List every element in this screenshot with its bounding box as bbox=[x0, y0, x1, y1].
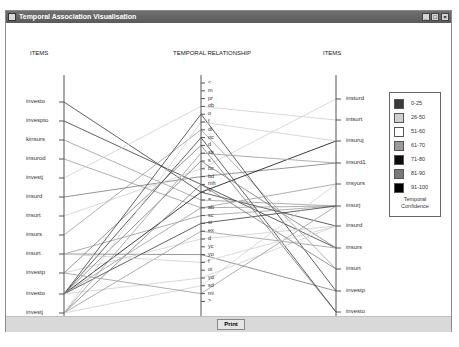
relationship-label[interactable]: yd bbox=[208, 274, 214, 280]
visualisation-canvas: ITEMS TEMPORAL RELATIONSHIP ITEMS invest… bbox=[6, 23, 451, 316]
left-item-label[interactable]: invespto bbox=[26, 117, 48, 123]
left-item-label[interactable]: investj bbox=[26, 309, 43, 315]
relationship-label[interactable]: oc bbox=[208, 134, 214, 140]
legend-title: Temporal Confidence bbox=[390, 196, 440, 210]
relationship-label[interactable]: m bbox=[208, 87, 213, 93]
relationship-label[interactable]: si bbox=[208, 219, 212, 225]
parallel-axes-plot bbox=[6, 23, 451, 316]
association-link bbox=[64, 140, 201, 200]
association-link bbox=[201, 184, 336, 269]
right-item-label[interactable]: insurs bbox=[346, 244, 362, 250]
association-link bbox=[201, 206, 336, 294]
relationship-label[interactable]: bd bbox=[208, 173, 214, 179]
right-item-label[interactable]: investp bbox=[346, 287, 365, 293]
association-link bbox=[201, 145, 336, 312]
relationship-label[interactable]: sd bbox=[208, 282, 214, 288]
right-item-label[interactable]: insurt bbox=[346, 265, 361, 271]
confidence-legend: 0-2526-5051-6061-7071-8081-9091-100 Temp… bbox=[389, 92, 441, 217]
association-link bbox=[64, 161, 201, 294]
association-link bbox=[64, 138, 201, 294]
left-item-label[interactable]: kinsurs bbox=[26, 136, 45, 142]
relationship-label[interactable]: o bbox=[208, 110, 211, 116]
association-link bbox=[201, 184, 336, 248]
close-button[interactable]: × bbox=[441, 13, 449, 21]
relationship-label[interactable]: mi bbox=[208, 290, 214, 296]
right-axis-header: ITEMS bbox=[323, 50, 341, 56]
left-item-label[interactable]: insurs bbox=[26, 231, 42, 237]
relationship-label[interactable]: > bbox=[208, 188, 211, 194]
relationship-label[interactable]: f bbox=[208, 258, 210, 264]
legend-swatch bbox=[394, 113, 404, 123]
relationship-label[interactable]: s bbox=[208, 157, 211, 163]
association-link bbox=[64, 254, 201, 262]
legend-range-label: 61-70 bbox=[411, 142, 425, 148]
relationship-label[interactable]: ab bbox=[208, 204, 214, 210]
relationship-label[interactable]: d bbox=[208, 235, 211, 241]
relationship-label[interactable]: f bbox=[208, 118, 210, 124]
association-link bbox=[64, 122, 201, 313]
right-item-label[interactable]: insurd bbox=[346, 222, 362, 228]
relationship-label[interactable]: mh bbox=[208, 180, 216, 186]
legend-swatch bbox=[394, 183, 404, 193]
title-bar[interactable]: Temporal Association Visualisation _ □ × bbox=[6, 11, 451, 23]
relationship-label[interactable]: yc bbox=[208, 243, 214, 249]
association-link bbox=[201, 226, 336, 239]
left-item-label[interactable]: investo bbox=[26, 290, 45, 296]
right-item-label[interactable]: investo bbox=[346, 308, 365, 314]
right-item-label[interactable]: insurd1 bbox=[346, 159, 366, 165]
legend-range-label: 81-90 bbox=[411, 170, 425, 176]
left-item-label[interactable]: insurt bbox=[26, 250, 41, 256]
close-icon: × bbox=[443, 14, 447, 20]
relationship-label[interactable]: < bbox=[208, 79, 211, 85]
legend-swatch bbox=[394, 127, 404, 137]
print-button[interactable]: Print bbox=[217, 319, 245, 330]
left-item-label[interactable]: insurod bbox=[26, 155, 46, 161]
association-link bbox=[201, 106, 336, 120]
association-link bbox=[201, 114, 336, 291]
relationship-label[interactable]: > bbox=[208, 297, 211, 303]
left-item-label[interactable]: investo bbox=[26, 98, 45, 104]
relationship-label[interactable]: ob bbox=[208, 102, 214, 108]
association-link bbox=[64, 153, 201, 313]
app-window: Temporal Association Visualisation _ □ ×… bbox=[5, 10, 452, 332]
association-link bbox=[201, 138, 336, 312]
relationship-label[interactable]: sc bbox=[208, 212, 214, 218]
relationship-label[interactable]: oi bbox=[208, 266, 212, 272]
relationship-label[interactable]: d bbox=[208, 141, 211, 147]
relationship-label[interactable]: sb bbox=[208, 149, 214, 155]
legend-swatch bbox=[394, 141, 404, 151]
left-item-label[interactable]: insurd bbox=[26, 193, 42, 199]
relationship-label[interactable]: = bbox=[208, 196, 211, 202]
middle-axis-header: TEMPORAL RELATIONSHIP bbox=[173, 50, 251, 56]
association-link bbox=[64, 208, 201, 294]
relationship-label[interactable]: yo bbox=[208, 251, 214, 257]
button-bar: Print bbox=[6, 316, 451, 332]
relationship-label[interactable]: bc bbox=[208, 165, 214, 171]
relationship-label[interactable]: pr bbox=[208, 95, 213, 101]
left-item-label[interactable]: investp bbox=[26, 269, 45, 275]
association-link bbox=[64, 286, 201, 313]
left-item-label[interactable]: investj bbox=[26, 174, 43, 180]
right-item-label[interactable]: insturd bbox=[346, 95, 364, 101]
relationship-label[interactable]: di bbox=[208, 126, 212, 132]
left-item-label[interactable]: insurt bbox=[26, 212, 41, 218]
right-item-label[interactable]: insyurs bbox=[346, 180, 365, 186]
right-item-label[interactable]: insurj bbox=[346, 202, 360, 208]
legend-range-label: 71-80 bbox=[411, 156, 425, 162]
relationship-label[interactable]: ex bbox=[208, 227, 214, 233]
app-icon bbox=[8, 13, 16, 21]
association-link bbox=[64, 177, 201, 197]
minimize-icon: _ bbox=[424, 14, 427, 20]
legend-swatch bbox=[394, 155, 404, 165]
association-link bbox=[64, 239, 201, 273]
right-item-label[interactable]: intsurt bbox=[346, 116, 362, 122]
minimize-button[interactable]: _ bbox=[422, 13, 430, 21]
legend-swatch bbox=[394, 169, 404, 179]
right-item-label[interactable]: insuruj bbox=[346, 137, 364, 143]
left-axis-header: ITEMS bbox=[30, 50, 48, 56]
maximize-button[interactable]: □ bbox=[431, 13, 439, 21]
maximize-icon: □ bbox=[433, 14, 437, 20]
association-link bbox=[64, 106, 201, 178]
legend-range-label: 26-50 bbox=[411, 114, 425, 120]
association-link bbox=[201, 226, 336, 262]
